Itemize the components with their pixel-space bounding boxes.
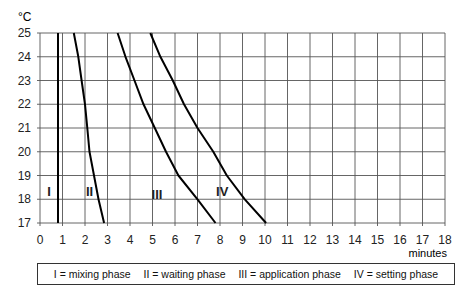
x-tick-label: 8: [217, 233, 224, 247]
y-tick-label: 17: [18, 216, 32, 230]
y-tick-label: 24: [18, 50, 32, 64]
x-axis-ticks: 0123456789101112131415161718: [37, 233, 452, 247]
x-tick-label: 14: [348, 233, 362, 247]
y-tick-label: 20: [18, 145, 32, 159]
x-tick-label: 10: [258, 233, 272, 247]
y-tick-label: 25: [18, 26, 32, 40]
x-tick-label: 12: [303, 233, 317, 247]
x-tick-label: 1: [59, 233, 66, 247]
y-tick-label: 23: [18, 74, 32, 88]
legend-item-mixing: I = mixing phase: [54, 268, 131, 280]
x-tick-label: 6: [172, 233, 179, 247]
legend-item-waiting: II = waiting phase: [144, 268, 226, 280]
x-tick-label: 7: [194, 233, 201, 247]
legend-item-application: III = application phase: [238, 268, 340, 280]
legend-item-setting: IV = setting phase: [354, 268, 438, 280]
x-tick-label: 0: [37, 233, 44, 247]
x-tick-label: 13: [326, 233, 340, 247]
y-tick-label: 19: [18, 169, 32, 183]
temperature-time-chart: 0123456789101112131415161718 17181920212…: [0, 0, 463, 262]
phase-label-I: I: [47, 184, 51, 199]
x-tick-label: 16: [393, 233, 407, 247]
x-tick-label: 9: [239, 233, 246, 247]
x-tick-label: 2: [82, 233, 89, 247]
phase-label-IV: IV: [216, 184, 229, 199]
x-tick-label: 18: [438, 233, 452, 247]
phase-label-III: III: [152, 187, 163, 202]
x-tick-label: 15: [371, 233, 385, 247]
x-tick-label: 11: [281, 233, 294, 247]
x-tick-label: 3: [104, 233, 111, 247]
legend: I = mixing phase II = waiting phase III …: [37, 263, 455, 285]
x-tick-label: 17: [416, 233, 430, 247]
x-tick-label: 4: [127, 233, 134, 247]
y-tick-label: 21: [18, 121, 32, 135]
y-axis-unit: °C: [18, 10, 32, 24]
x-axis-label: minutes: [408, 247, 447, 259]
phase-label-II: II: [86, 184, 93, 199]
y-tick-label: 22: [18, 97, 32, 111]
y-axis-ticks: 171819202122232425: [18, 26, 32, 230]
x-tick-label: 5: [149, 233, 156, 247]
y-tick-label: 18: [18, 192, 32, 206]
